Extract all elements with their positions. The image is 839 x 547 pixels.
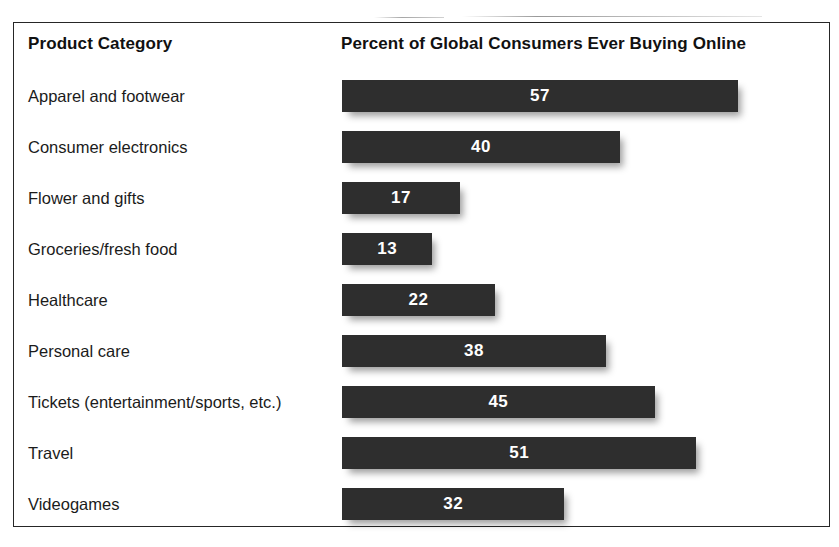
chart-header-row: Product Category Percent of Global Consu… xyxy=(14,23,829,71)
bar: 22 xyxy=(342,284,495,316)
chart-row: Groceries/fresh food13 xyxy=(14,224,829,275)
chart-row: Flower and gifts17 xyxy=(14,173,829,224)
bar-value-label: 17 xyxy=(391,188,411,208)
bar-value-label: 57 xyxy=(530,86,550,106)
bar-value-label: 45 xyxy=(488,392,508,412)
bar: 32 xyxy=(342,488,564,520)
category-label: Apparel and footwear xyxy=(28,71,185,122)
bar-value-label: 22 xyxy=(408,290,428,310)
chart-row: Apparel and footwear57 xyxy=(14,71,829,122)
chart-row: Personal care38 xyxy=(14,326,829,377)
bar: 51 xyxy=(342,437,696,469)
category-label: Groceries/fresh food xyxy=(28,224,177,275)
category-label: Tickets (entertainment/sports, etc.) xyxy=(28,377,281,428)
category-label: Flower and gifts xyxy=(28,173,144,224)
scan-artifact-line xyxy=(374,17,444,18)
bar: 38 xyxy=(342,335,606,367)
scan-artifact-line xyxy=(462,16,762,17)
bar-value-label: 38 xyxy=(464,341,484,361)
bar: 17 xyxy=(342,182,460,214)
bar: 57 xyxy=(342,80,738,112)
chart-frame: Product Category Percent of Global Consu… xyxy=(13,22,830,527)
chart-rows: Apparel and footwear57Consumer electroni… xyxy=(14,71,829,530)
bar: 40 xyxy=(342,131,620,163)
chart-row: Travel51 xyxy=(14,428,829,479)
category-label: Personal care xyxy=(28,326,130,377)
chart-row: Tickets (entertainment/sports, etc.)45 xyxy=(14,377,829,428)
bar-value-label: 51 xyxy=(509,443,529,463)
category-label: Consumer electronics xyxy=(28,122,188,173)
column-header-product-category: Product Category xyxy=(28,34,172,54)
chart-row: Videogames32 xyxy=(14,479,829,530)
chart-inner: Product Category Percent of Global Consu… xyxy=(14,23,829,526)
category-label: Travel xyxy=(28,428,73,479)
chart-row: Consumer electronics40 xyxy=(14,122,829,173)
column-header-percent-global-consumers: Percent of Global Consumers Ever Buying … xyxy=(341,34,746,54)
chart-row: Healthcare22 xyxy=(14,275,829,326)
category-label: Videogames xyxy=(28,479,119,530)
bar-value-label: 32 xyxy=(443,494,463,514)
bar-value-label: 40 xyxy=(471,137,491,157)
category-label: Healthcare xyxy=(28,275,108,326)
bar-value-label: 13 xyxy=(377,239,397,259)
bar: 45 xyxy=(342,386,655,418)
bar: 13 xyxy=(342,233,432,265)
